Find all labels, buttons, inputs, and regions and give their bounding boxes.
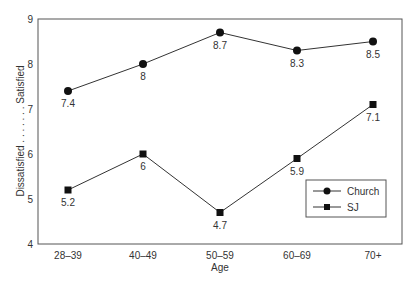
data-label: 4.7 bbox=[213, 220, 227, 231]
legend-sj-label: SJ bbox=[347, 202, 359, 213]
data-label: 8.5 bbox=[366, 49, 380, 60]
data-label: 7.4 bbox=[61, 98, 75, 109]
x-tick-label: 70+ bbox=[365, 250, 382, 261]
data-label: 5.9 bbox=[290, 166, 304, 177]
y-axis-ticks: 456789 bbox=[27, 14, 33, 250]
square-marker-icon bbox=[140, 151, 147, 158]
x-axis-label: Age bbox=[211, 262, 229, 273]
y-tick-label: 9 bbox=[27, 14, 33, 25]
legend: Church SJ bbox=[306, 180, 386, 217]
data-label: 6 bbox=[140, 161, 146, 172]
circle-marker-icon bbox=[64, 87, 72, 95]
y-tick-label: 7 bbox=[27, 104, 33, 115]
circle-marker-icon bbox=[369, 38, 377, 46]
line-chart: 456789 28–3940–4950–5960–6970+ 7.488.78.… bbox=[0, 0, 416, 283]
y-tick-label: 4 bbox=[27, 239, 33, 250]
data-label: 8 bbox=[140, 71, 146, 82]
y-tick-label: 5 bbox=[27, 194, 33, 205]
y-tick-label: 8 bbox=[27, 59, 33, 70]
circle-marker-icon bbox=[139, 60, 147, 68]
data-label: 8.7 bbox=[213, 40, 227, 51]
square-marker-icon bbox=[65, 187, 72, 194]
x-tick-label: 50–59 bbox=[206, 250, 234, 261]
legend-church-label: Church bbox=[347, 186, 379, 197]
y-axis-label: Dissatisfied . . . . . . . Satisfied bbox=[15, 65, 26, 196]
square-marker-icon bbox=[294, 155, 301, 162]
data-label: 5.2 bbox=[61, 197, 75, 208]
circle-marker-icon bbox=[293, 47, 301, 55]
y-tick-label: 6 bbox=[27, 149, 33, 160]
x-tick-label: 40–49 bbox=[129, 250, 157, 261]
circle-marker-icon bbox=[324, 188, 331, 195]
square-marker-icon bbox=[324, 204, 330, 210]
square-marker-icon bbox=[370, 101, 377, 108]
x-axis-ticks: 28–3940–4950–5960–6970+ bbox=[54, 250, 382, 261]
x-tick-label: 60–69 bbox=[283, 250, 311, 261]
circle-marker-icon bbox=[216, 29, 224, 37]
data-label: 7.1 bbox=[366, 112, 380, 123]
square-marker-icon bbox=[217, 209, 224, 216]
data-label: 8.3 bbox=[290, 58, 304, 69]
x-tick-label: 28–39 bbox=[54, 250, 82, 261]
